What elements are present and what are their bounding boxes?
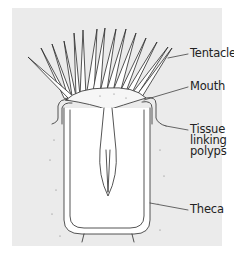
label-tentacle: Tentacle: [190, 48, 234, 59]
label-theca: Theca: [190, 204, 224, 215]
label-mouth: Mouth: [190, 81, 225, 92]
label-tissue-linking-polyps: Tissue linking polyps: [190, 124, 227, 157]
